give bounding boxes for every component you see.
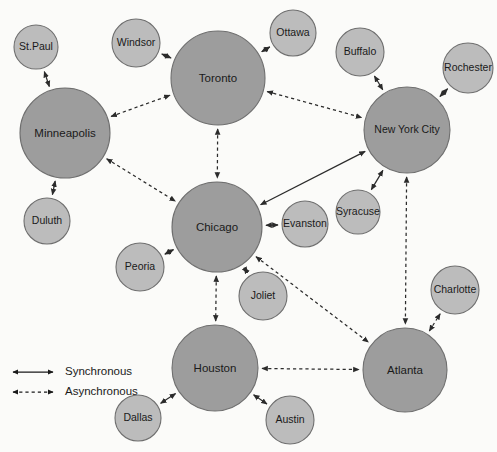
node-circle-toronto[interactable] (171, 31, 265, 125)
node-buffalo[interactable]: Buffalo (336, 28, 384, 76)
legend-label-synchronous: Synchronous (65, 365, 132, 377)
node-circle-windsor[interactable] (112, 19, 160, 67)
edge-minneapolis-duluth (52, 181, 55, 195)
node-circle-dallas[interactable] (115, 395, 161, 441)
node-circle-evanston[interactable] (282, 201, 328, 247)
diagram-canvas: St.PaulWindsorTorontoOttawaBuffaloRoches… (0, 0, 497, 452)
node-layer: St.PaulWindsorTorontoOttawaBuffaloRoches… (14, 10, 493, 444)
edge-houston-atlanta (262, 368, 359, 369)
node-minneapolis[interactable]: Minneapolis (20, 88, 110, 178)
node-stpaul[interactable]: St.Paul (14, 25, 58, 69)
legend-item-asynchronous: Asynchronous (13, 385, 138, 397)
node-windsor[interactable]: Windsor (112, 19, 160, 67)
node-circle-houston[interactable] (172, 325, 258, 411)
node-ottawa[interactable]: Ottawa (270, 10, 316, 56)
node-circle-duluth[interactable] (24, 198, 70, 244)
node-circle-chicago[interactable] (172, 182, 262, 272)
legend-item-synchronous: Synchronous (13, 365, 132, 377)
edge-newyork-atlanta (405, 177, 406, 324)
edge-houston-dallas (161, 394, 176, 404)
network-graph: St.PaulWindsorTorontoOttawaBuffaloRoches… (0, 0, 497, 452)
node-chicago[interactable]: Chicago (172, 182, 262, 272)
edge-newyork-buffalo (374, 76, 382, 90)
node-circle-joliet[interactable] (239, 272, 287, 320)
legend: SynchronousAsynchronous (13, 365, 138, 397)
node-circle-newyork[interactable] (364, 87, 450, 173)
edge-houston-austin (254, 395, 267, 404)
node-circle-minneapolis[interactable] (20, 88, 110, 178)
node-circle-ottawa[interactable] (270, 10, 316, 56)
node-circle-austin[interactable] (266, 396, 314, 444)
edge-newyork-syracuse (371, 170, 383, 189)
node-rochester[interactable]: Rochester (443, 43, 493, 93)
node-dallas[interactable]: Dallas (115, 395, 161, 441)
node-circle-peoria[interactable] (116, 243, 164, 291)
node-charlotte[interactable]: Charlotte (431, 266, 479, 314)
node-syracuse[interactable]: Syracuse (336, 190, 380, 234)
node-atlanta[interactable]: Atlanta (363, 328, 447, 412)
edge-toronto-windsor (162, 54, 171, 58)
edge-toronto-ottawa (262, 47, 270, 52)
node-houston[interactable]: Houston (172, 325, 258, 411)
node-austin[interactable]: Austin (266, 396, 314, 444)
edge-chicago-peoria (165, 250, 174, 255)
node-duluth[interactable]: Duluth (24, 198, 70, 244)
node-peoria[interactable]: Peoria (116, 243, 164, 291)
edge-minneapolis-chicago (107, 159, 176, 201)
node-circle-charlotte[interactable] (431, 266, 479, 314)
edge-minneapolis-stpaul (44, 72, 49, 87)
edge-chicago-houston (216, 276, 217, 321)
node-circle-syracuse[interactable] (336, 190, 380, 234)
legend-label-asynchronous: Asynchronous (65, 385, 138, 397)
edge-minneapolis-toronto (111, 95, 170, 116)
edge-newyork-rochester (440, 89, 448, 97)
node-newyork[interactable]: New York City (364, 87, 450, 173)
edge-atlanta-charlotte (429, 314, 440, 331)
node-circle-buffalo[interactable] (336, 28, 384, 76)
node-circle-stpaul[interactable] (14, 25, 58, 69)
edge-toronto-newyork (267, 92, 362, 118)
node-toronto[interactable]: Toronto (171, 31, 265, 125)
node-joliet[interactable]: Joliet (239, 272, 287, 320)
node-circle-atlanta[interactable] (363, 328, 447, 412)
node-evanston[interactable]: Evanston (282, 201, 328, 247)
edge-chicago-joliet (244, 268, 247, 273)
node-circle-rochester[interactable] (443, 43, 493, 93)
